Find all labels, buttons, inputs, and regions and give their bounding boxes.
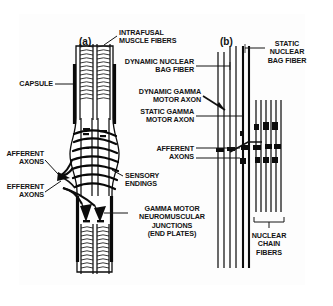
nuclear-chain-fiber-lines <box>256 100 281 212</box>
label-afferent-axons-right: AFFERENT AXONS <box>130 145 194 162</box>
label-dynamic-nuclear-bag-fiber: DYNAMIC NUCLEAR BAG FIBER <box>104 58 194 75</box>
leader-efferent <box>45 181 61 192</box>
label-sensory-endings: SENSORY ENDINGS <box>125 172 159 189</box>
label-static-nuclear-bag-fiber: STATIC NUCLEAR BAG FIBER <box>265 40 309 65</box>
label-intrafusal-muscle-fibers: INTRAFUSAL MUSCLE FIBERS <box>119 29 176 46</box>
label-gamma-motor-junctions: GAMMA MOTOR NEUROMUSCULAR JUNCTIONS (END… <box>130 205 214 239</box>
label-capsule: CAPSULE <box>0 80 53 88</box>
figure-page: (a) (b) INTRAFUSAL MUSCLE FIBERS CAPSULE… <box>0 0 333 306</box>
leader-intrafusal <box>104 36 117 45</box>
panel-a-tag: (a) <box>79 36 91 47</box>
label-dynamic-gamma-motor-axon: DYNAMIC GAMMA MOTOR AXON <box>112 88 201 105</box>
panel-b-tag: (b) <box>220 36 233 47</box>
label-efferent-axons: EFFERENT AXONS <box>0 183 44 200</box>
fiber-lines-left-group <box>218 46 236 268</box>
label-afferent-axons-left: AFFERENT AXONS <box>0 150 44 167</box>
leader-afferent-left <box>45 160 58 174</box>
nuclear-chain-bracket <box>254 217 284 228</box>
label-static-gamma-motor-axon: STATIC GAMMA MOTOR AXON <box>114 108 194 125</box>
label-nuclear-chain-fibers: NUCLEAR CHAIN FIBERS <box>246 232 292 257</box>
